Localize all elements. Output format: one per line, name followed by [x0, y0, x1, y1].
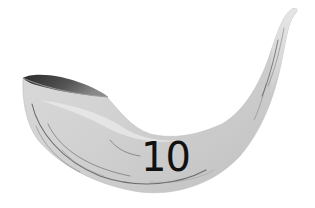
shofar-illustration: 10 — [0, 0, 315, 208]
number-label: 10 — [141, 134, 190, 180]
